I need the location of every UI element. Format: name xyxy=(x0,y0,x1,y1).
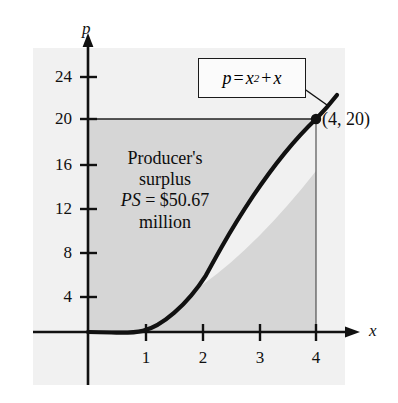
y-tick-label-12: 12 xyxy=(38,200,72,217)
y-tick-label-24: 24 xyxy=(38,68,72,85)
y-tick-label-4: 4 xyxy=(38,288,72,305)
equation-plus: + xyxy=(259,68,273,89)
point-label-4-20: (4, 20) xyxy=(322,110,370,128)
x-tick-label-4: 4 xyxy=(301,349,331,366)
x-tick-label-2: 2 xyxy=(188,349,218,366)
surplus-line-2: surplus xyxy=(80,169,250,190)
surplus-symbol: PS xyxy=(121,190,141,210)
producer-surplus-figure: ..... xyxy=(0,0,398,403)
surplus-value: = $50.67 xyxy=(141,190,210,210)
x-axis-label-x: x xyxy=(369,322,377,339)
surplus-line-3: PS = $50.67 xyxy=(80,190,250,211)
y-tick-label-20: 20 xyxy=(38,110,72,127)
equation-lhs: p xyxy=(223,68,232,89)
y-axis-label-p: p xyxy=(82,20,91,37)
x-tick-label-1: 1 xyxy=(131,349,161,366)
surplus-line-1: Producer's xyxy=(80,148,250,169)
surplus-line-4: million xyxy=(80,212,250,233)
x-tick-label-3: 3 xyxy=(245,349,275,366)
data-point-4-20 xyxy=(311,114,321,124)
producer-surplus-annotation: Producer's surplus PS = $50.67 million xyxy=(80,148,250,233)
equation-callout-box: p = x 2 + x xyxy=(198,58,306,98)
x-axis-arrowhead xyxy=(345,326,360,337)
y-tick-label-16: 16 xyxy=(38,156,72,173)
y-tick-label-8: 8 xyxy=(38,244,72,261)
equation-base: x xyxy=(246,68,254,89)
equation-equals: = xyxy=(232,68,246,89)
equation-term: x xyxy=(273,68,281,89)
